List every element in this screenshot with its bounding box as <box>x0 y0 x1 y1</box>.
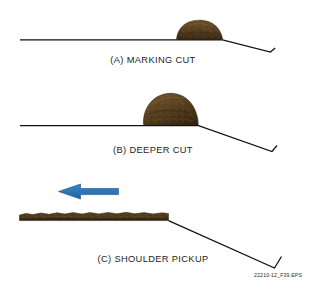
figure-reference-code: 22210-12_F39.EPS <box>254 272 302 278</box>
soil-layer-strip <box>20 212 169 220</box>
shoulder-grading-diagram: (A) MARKING CUT (B) DEEPER CUT <box>0 0 310 289</box>
soil-texture-overlay-c <box>20 212 169 220</box>
panel-label-c: (C) SHOULDER PICKUP <box>98 254 209 264</box>
figure-container: (A) MARKING CUT (B) DEEPER CUT <box>0 0 310 289</box>
panel-label-a: (A) MARKING CUT <box>110 55 195 65</box>
panel-label-b: (B) DEEPER CUT <box>113 145 193 155</box>
